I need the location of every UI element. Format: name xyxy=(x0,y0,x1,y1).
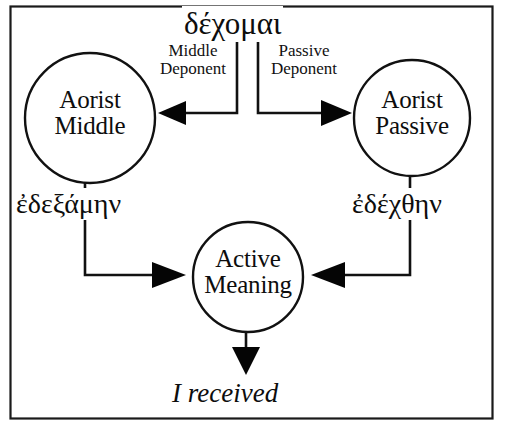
deponent-verb-diagram: δέχομαι Middle Deponent Passive Deponent… xyxy=(0,0,505,425)
edge-label-passive-deponent-line2: Deponent xyxy=(263,60,345,78)
form-label-aorist-passive: ἐδέχθην xyxy=(350,188,444,220)
edge-label-middle-deponent: Middle Deponent xyxy=(152,42,234,78)
edge-label-middle-deponent-line1: Middle xyxy=(152,42,234,60)
root-verb-label: δέχομαι xyxy=(182,6,283,42)
edge-label-passive-deponent-line1: Passive xyxy=(263,42,345,60)
gloss-label: I received xyxy=(172,378,278,409)
node-circle-aorist-middle xyxy=(25,53,155,183)
form-label-aorist-middle: ἐδεξάμην xyxy=(14,188,123,220)
edge-active-meaning-to-gloss xyxy=(232,332,260,375)
node-circle-aorist-passive xyxy=(354,60,470,176)
edge-label-passive-deponent: Passive Deponent xyxy=(263,42,345,78)
edge-label-middle-deponent-line2: Deponent xyxy=(152,60,234,78)
node-circle-active-meaning xyxy=(193,222,303,332)
